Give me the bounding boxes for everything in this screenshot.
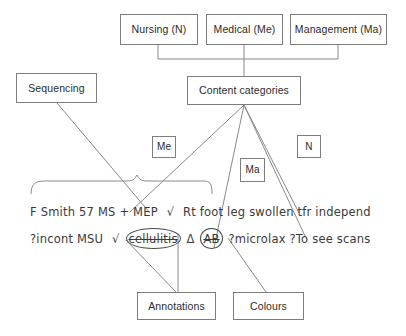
node-medical[interactable]: Medical (Me): [206, 14, 283, 45]
node-content-categories-label: Content categories: [199, 85, 289, 96]
line-content-to-me-note: [130, 105, 244, 212]
node-content-categories[interactable]: Content categories: [187, 76, 301, 105]
note-line1-part1: F Smith 57 MS + MEP: [30, 205, 158, 219]
line-nursing-to-content: [158, 45, 244, 76]
node-medical-label: Medical (Me): [214, 24, 276, 35]
node-management[interactable]: Management (Ma): [290, 14, 387, 45]
node-tag-ma[interactable]: Ma: [240, 158, 265, 182]
note-line1-part3: Rt foot leg swollen tfr independ: [183, 205, 371, 219]
node-annotations[interactable]: Annotations: [137, 292, 216, 320]
node-colours[interactable]: Colours: [233, 292, 304, 320]
handwritten-note-line-1: F Smith 57 MS + MEP √ Rt foot leg swolle…: [30, 205, 371, 219]
note-line2-part6: ?microlax ?To see scans: [229, 232, 371, 246]
note-line2-cellulitis: cellulitis: [129, 232, 178, 246]
node-colours-label: Colours: [250, 301, 287, 312]
note-line2-check-icon: √: [112, 232, 120, 246]
line-cellulitis-to-annotations: [126, 240, 176, 292]
note-line2-ab: AB: [203, 232, 219, 246]
node-tag-n[interactable]: N: [297, 135, 321, 158]
node-tag-me-label: Me: [157, 142, 171, 152]
node-sequencing-label: Sequencing: [28, 83, 84, 94]
note-line1-check-icon: √: [167, 205, 175, 219]
note-line2-delta-icon: Δ: [187, 232, 195, 246]
handwritten-note-line-2: ?incont MSU √ cellulitis Δ AB ?microlax …: [30, 232, 370, 246]
line-ab-to-colours: [228, 238, 266, 292]
node-tag-ma-label: Ma: [245, 165, 259, 175]
note-line2-part1: ?incont MSU: [30, 232, 103, 246]
line-sequencing-to-note: [57, 103, 150, 213]
node-annotations-label: Annotations: [148, 301, 205, 312]
note-brace: [31, 175, 212, 194]
node-tag-n-label: N: [305, 142, 312, 152]
node-nursing-label: Nursing (N): [132, 24, 187, 35]
node-tag-me[interactable]: Me: [152, 136, 176, 158]
diagram-canvas: Nursing (N) Medical (Me) Management (Ma)…: [0, 0, 406, 336]
line-management-to-content: [244, 45, 338, 59]
node-sequencing[interactable]: Sequencing: [16, 73, 97, 103]
connector-lines: [0, 0, 406, 336]
node-management-label: Management (Ma): [295, 24, 382, 35]
node-nursing[interactable]: Nursing (N): [120, 14, 198, 45]
